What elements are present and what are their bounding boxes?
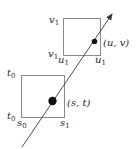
label-point-st: (s, t) [67, 97, 90, 108]
label-s0: s0 [17, 117, 27, 130]
point-st-dot [48, 97, 56, 105]
label-u1-right: u1 [95, 54, 106, 67]
label-s1: s1 [60, 117, 70, 130]
label-v1-bottom: v1 [48, 48, 58, 61]
upper-square [64, 19, 101, 56]
lower-square [22, 76, 65, 118]
point-uv-dot [92, 39, 98, 45]
label-t0-top: t0 [7, 67, 16, 80]
label-v1-top: v1 [49, 14, 59, 27]
label-t0-bottom: t0 [7, 110, 16, 123]
label-point-uv: (u, v) [103, 37, 129, 48]
mapping-diagram: v1 v1 u1 u1 (u, v) t0 t0 s0 s1 (s, t) [0, 0, 136, 149]
